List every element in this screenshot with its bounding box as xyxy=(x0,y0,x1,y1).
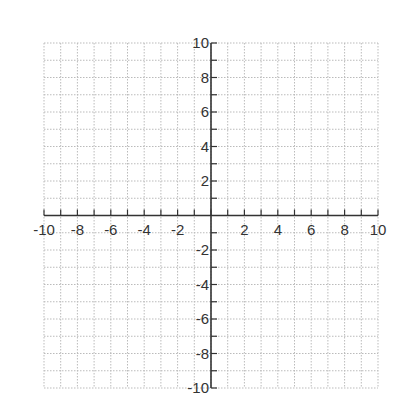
x-tick-label: 2 xyxy=(240,221,248,238)
y-tick-label: -6 xyxy=(196,310,209,327)
x-tick-label: -4 xyxy=(138,221,151,238)
x-tick-label: -2 xyxy=(171,221,184,238)
x-tick-label: -6 xyxy=(104,221,117,238)
y-tick-label: -10 xyxy=(187,379,209,396)
x-tick-label: -8 xyxy=(71,221,84,238)
y-tick-label: -2 xyxy=(196,241,209,258)
x-tick-label: 6 xyxy=(307,221,315,238)
coordinate-plane: -10-8-6-4-2246810108642-2-4-6-8-10 xyxy=(0,0,402,417)
y-tick-label: -4 xyxy=(196,276,209,293)
y-tick-label: 8 xyxy=(201,69,209,86)
y-tick-label: 6 xyxy=(201,103,209,120)
y-tick-label: -8 xyxy=(196,345,209,362)
y-tick-label: 2 xyxy=(201,172,209,189)
x-tick-label: -10 xyxy=(33,221,55,238)
y-tick-label: 4 xyxy=(201,138,209,155)
x-tick-label: 8 xyxy=(340,221,348,238)
y-tick-label: 10 xyxy=(192,34,209,51)
x-tick-label: 10 xyxy=(370,221,387,238)
x-tick-label: 4 xyxy=(274,221,282,238)
